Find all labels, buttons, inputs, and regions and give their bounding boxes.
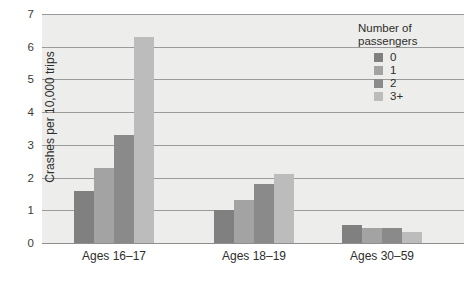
bar bbox=[362, 228, 382, 243]
legend-item-label: 3+ bbox=[390, 90, 403, 103]
y-axis-tick-label: 7 bbox=[6, 8, 34, 20]
y-axis-tick-label: 3 bbox=[6, 139, 34, 151]
legend-title-line: Number of bbox=[358, 22, 462, 35]
gridline bbox=[42, 112, 464, 113]
legend: Number ofpassengers 0123+ bbox=[358, 22, 462, 103]
bar bbox=[74, 191, 94, 243]
x-axis-tick-label: Ages 18–19 bbox=[222, 249, 286, 263]
x-axis-line bbox=[42, 243, 464, 244]
bar bbox=[234, 200, 254, 243]
legend-item-label: 0 bbox=[390, 51, 396, 64]
bar bbox=[214, 210, 234, 243]
legend-swatch-icon bbox=[374, 66, 383, 75]
gridline bbox=[42, 14, 464, 15]
y-axis-tick-label: 1 bbox=[6, 204, 34, 216]
legend-item[interactable]: 0 bbox=[374, 51, 462, 64]
bar bbox=[274, 174, 294, 243]
legend-item[interactable]: 3+ bbox=[374, 90, 462, 103]
y-axis-tick-label: 6 bbox=[6, 41, 34, 53]
y-axis-tick-label: 0 bbox=[6, 237, 34, 249]
y-axis-tick-label: 2 bbox=[6, 172, 34, 184]
x-axis-tick-label: Ages 30–59 bbox=[350, 249, 414, 263]
x-axis-tick-label: Ages 16–17 bbox=[82, 249, 146, 263]
legend-swatch-icon bbox=[374, 92, 383, 101]
gridline bbox=[42, 145, 464, 146]
legend-swatch-icon bbox=[374, 53, 383, 62]
legend-item-label: 1 bbox=[390, 64, 396, 77]
bar bbox=[382, 228, 402, 243]
bar bbox=[254, 184, 274, 243]
y-axis-label: Crashes per 10,000 trips bbox=[43, 7, 57, 227]
bar bbox=[402, 232, 422, 243]
legend-swatch-icon bbox=[374, 79, 383, 88]
bar bbox=[114, 135, 134, 243]
bar-chart: 01234567 Crashes per 10,000 trips Ages 1… bbox=[0, 0, 464, 281]
bar bbox=[134, 37, 154, 243]
legend-title-line: passengers bbox=[358, 35, 462, 48]
legend-title: Number ofpassengers bbox=[358, 22, 462, 48]
bar bbox=[94, 168, 114, 243]
legend-entries: 0123+ bbox=[358, 51, 462, 103]
legend-item[interactable]: 1 bbox=[374, 64, 462, 77]
legend-item[interactable]: 2 bbox=[374, 77, 462, 90]
legend-item-label: 2 bbox=[390, 77, 396, 90]
y-axis-tick-label: 5 bbox=[6, 73, 34, 85]
bar bbox=[342, 225, 362, 243]
y-axis-tick-label: 4 bbox=[6, 106, 34, 118]
